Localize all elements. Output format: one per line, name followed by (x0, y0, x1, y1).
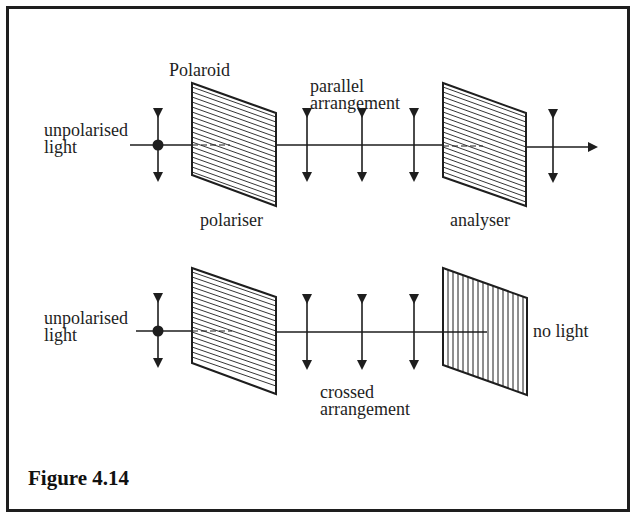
horizontal-hatch (443, 87, 526, 202)
analyser-sheet (443, 83, 526, 206)
horizontal-hatch (192, 272, 276, 386)
label-line: arrangement (310, 93, 400, 113)
unpolarised-symbol-icon (153, 301, 164, 366)
label-line: light (44, 325, 77, 345)
unpolarised-symbol-icon (153, 116, 164, 180)
no-light-label: no light (533, 323, 589, 340)
polariser-sheet (192, 268, 276, 394)
polariser-sheet (192, 83, 276, 206)
figure-caption: Figure 4.14 (28, 466, 129, 491)
polaroid-label: Polaroid (169, 62, 230, 79)
vertical-hatch (448, 260, 523, 400)
crossed-analyser-sheet (443, 260, 527, 400)
unpolarised-light-label: unpolarisedlight (44, 310, 128, 344)
label-line: light (44, 137, 77, 157)
polariser-label: polariser (200, 212, 263, 229)
parallel-arrangement-label: parallelarrangement (310, 78, 400, 112)
unpolarised-light-label: unpolarisedlight (44, 122, 128, 156)
vertical-polarisation-arrows (307, 302, 414, 368)
vertical-polarisation-arrows (307, 116, 414, 180)
analyser-label: analyser (450, 212, 510, 229)
bottom-panel-crossed (136, 260, 527, 400)
label-line: arrangement (320, 399, 410, 419)
crossed-arrangement-label: crossedarrangement (320, 384, 410, 418)
